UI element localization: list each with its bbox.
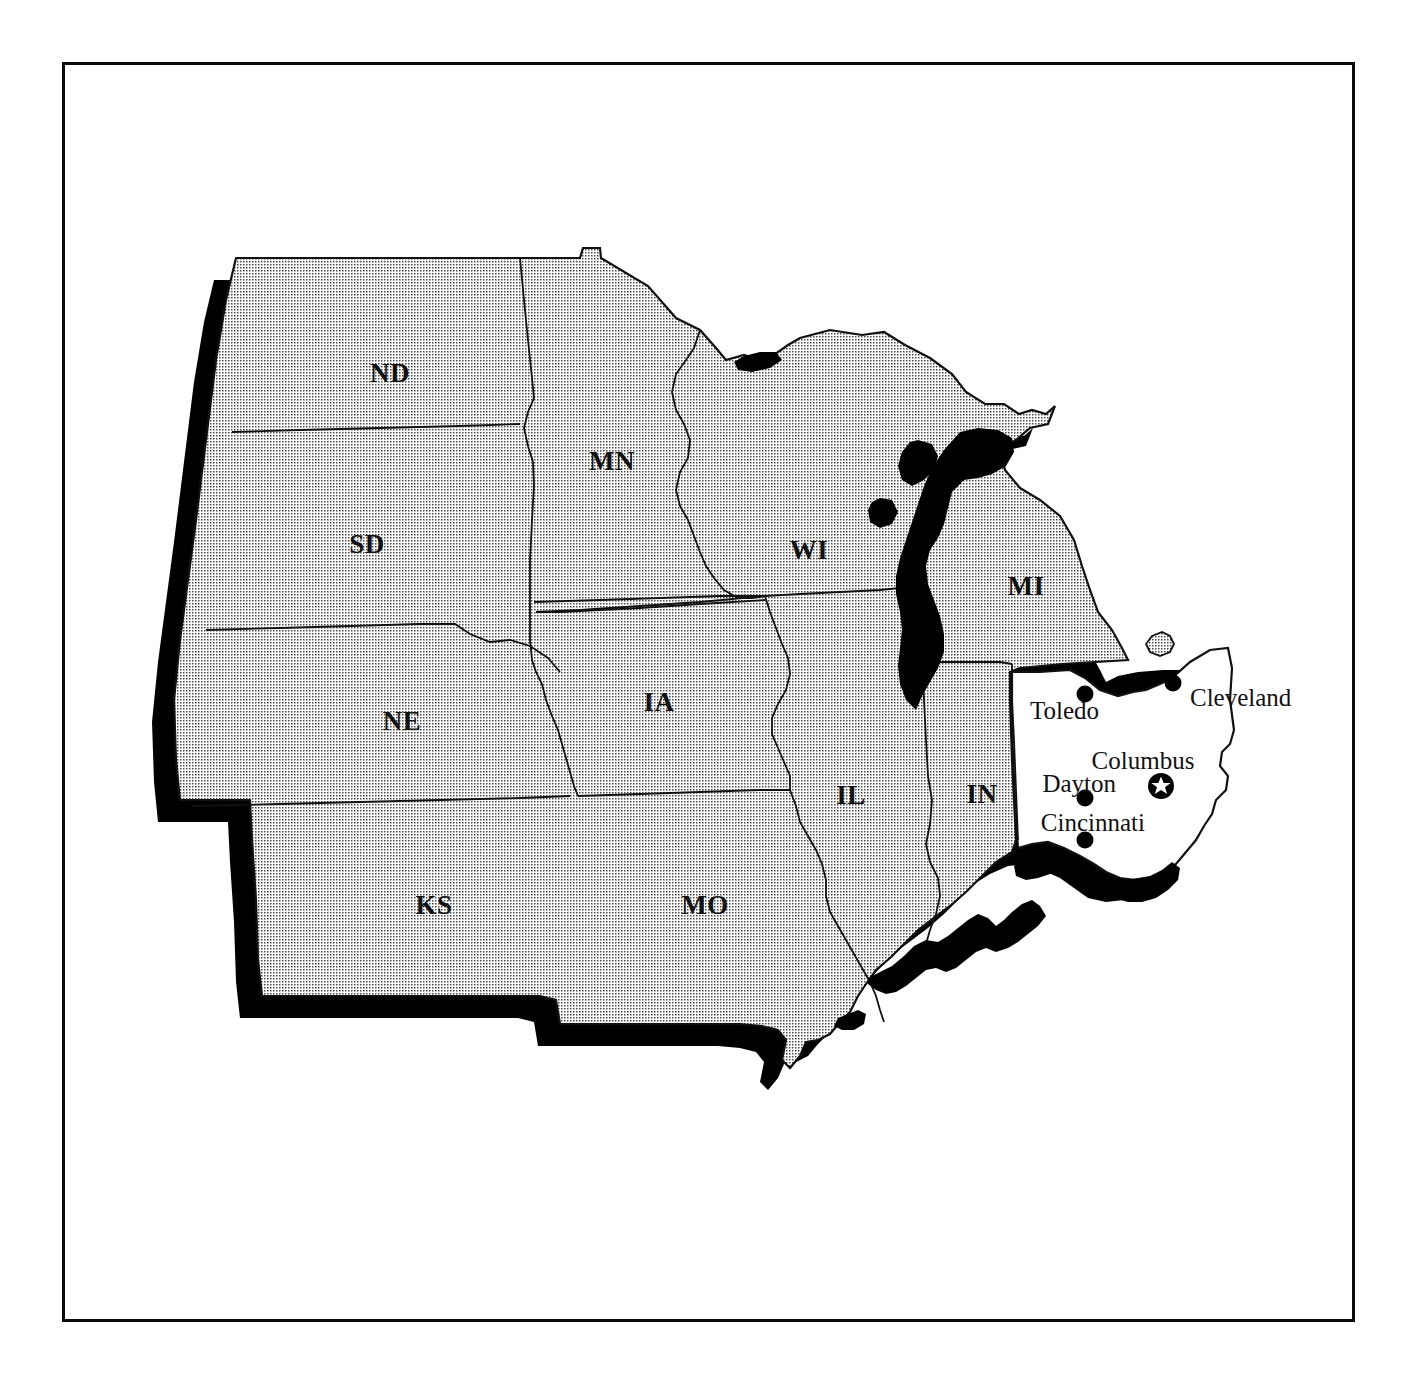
state-label-wi: WI [790, 535, 829, 565]
state-label-ne: NE [383, 706, 422, 736]
state-label-nd: ND [370, 358, 410, 388]
capital-star-icon[interactable] [1148, 773, 1174, 799]
map-figure: ND MN SD WI MI NE IA IL IN KS MO Toledo … [0, 0, 1414, 1390]
state-label-ks: KS [415, 890, 452, 920]
state-label-il: IL [836, 780, 866, 810]
map-canvas: ND MN SD WI MI NE IA IL IN KS MO Toledo … [0, 0, 1414, 1390]
state-label-mi: MI [1008, 571, 1045, 601]
state-label-sd: SD [349, 529, 385, 559]
state-label-mo: MO [681, 890, 729, 920]
city-dot-cleveland[interactable] [1165, 675, 1182, 692]
state-label-in: IN [966, 779, 997, 809]
city-label-dayton: Dayton [1042, 770, 1116, 797]
city-label-cincinnati: Cincinnati [1041, 809, 1145, 836]
state-label-ia: IA [643, 687, 674, 717]
city-label-cleveland: Cleveland [1190, 684, 1292, 711]
lake-erie-island [1146, 632, 1174, 656]
state-label-mn: MN [589, 446, 635, 476]
city-label-toledo: Toledo [1030, 697, 1099, 724]
